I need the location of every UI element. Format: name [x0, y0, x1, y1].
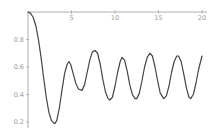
y-tick-label: 0.2 — [14, 118, 24, 126]
data-series-line — [28, 12, 202, 123]
y-axis: 0.80.60.40.2 — [14, 12, 29, 128]
x-axis: 5101520 — [28, 10, 207, 22]
y-tick-label: 0.6 — [14, 63, 24, 71]
y-tick-label: 0.8 — [14, 36, 24, 44]
x-tick-label: 5 — [69, 14, 73, 22]
line-chart: 5101520 0.80.60.40.2 — [0, 0, 217, 136]
y-ticks: 0.80.60.40.2 — [14, 36, 29, 127]
x-tick-label: 20 — [198, 14, 206, 22]
x-tick-label: 15 — [154, 14, 162, 22]
y-tick-label: 0.4 — [14, 91, 24, 99]
x-tick-label: 10 — [111, 14, 119, 22]
